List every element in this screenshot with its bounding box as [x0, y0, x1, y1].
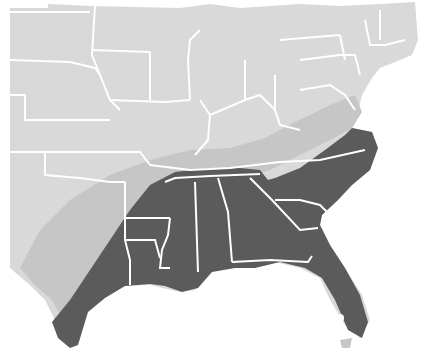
range-map — [0, 0, 431, 362]
florida-tip — [340, 338, 352, 348]
lake-okeechobee — [336, 314, 344, 322]
